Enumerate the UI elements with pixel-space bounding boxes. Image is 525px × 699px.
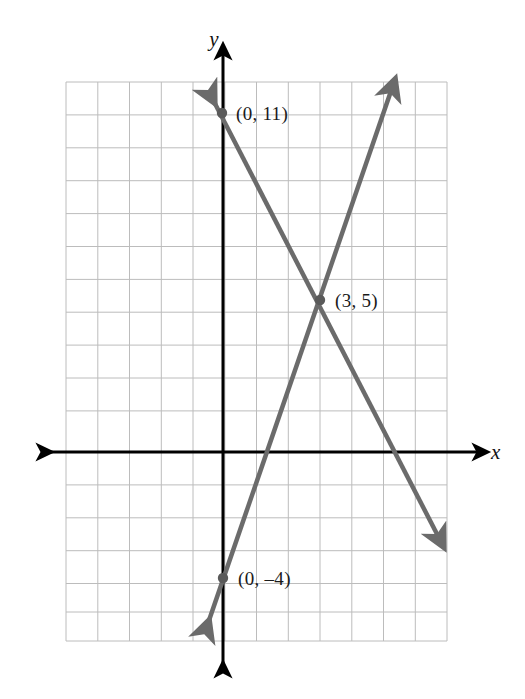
graph-canvas: y x (0, 11) (3, 5) (0, –4) <box>0 0 525 699</box>
grid-lines <box>66 82 447 641</box>
coordinate-plane-figure: y x (0, 11) (3, 5) (0, –4) <box>0 0 525 699</box>
label-point-0-neg4: (0, –4) <box>238 568 291 590</box>
point-3-5 <box>315 295 325 305</box>
y-axis-label: y <box>207 27 219 51</box>
x-axis-label: x <box>490 440 501 464</box>
point-0-11 <box>217 108 227 118</box>
point-0-neg4 <box>218 573 228 583</box>
label-point-3-5: (3, 5) <box>335 290 378 312</box>
label-point-0-11: (0, 11) <box>236 103 288 125</box>
falling-line <box>209 92 438 536</box>
